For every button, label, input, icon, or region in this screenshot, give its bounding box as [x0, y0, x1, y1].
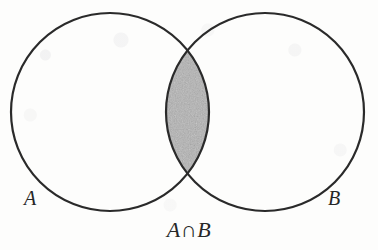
set-b-label: B — [328, 188, 340, 208]
venn-diagram-figure: A B A∩B — [0, 0, 378, 250]
figure-caption: A∩B — [0, 219, 378, 241]
venn-diagram-canvas — [0, 0, 378, 250]
set-a-label: A — [24, 188, 36, 208]
